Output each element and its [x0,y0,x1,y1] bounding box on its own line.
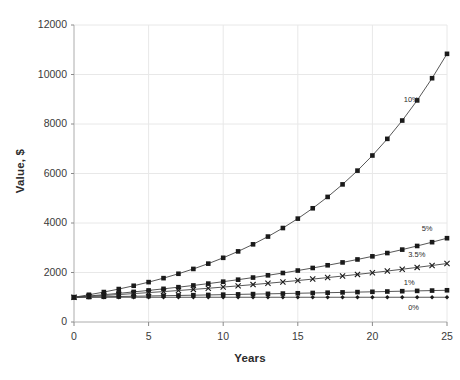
series-label-0: 0% [408,303,419,312]
series-marker [191,267,196,272]
series-marker [296,291,301,296]
series-line [74,238,447,297]
series-marker [206,281,211,286]
series-marker [281,271,286,276]
series-marker [430,295,434,299]
series-marker [415,295,419,299]
series-marker [445,295,449,299]
x-tick-label: 0 [54,330,94,342]
series-marker [236,249,241,254]
series-marker [340,290,345,295]
series-marker [176,271,181,276]
series-marker [266,273,271,278]
x-tick-label: 10 [203,330,243,342]
series-marker [400,118,405,123]
series-marker [370,254,375,259]
series-marker [445,288,450,293]
y-tick-label: 12000 [21,18,67,30]
series-marker [370,290,375,295]
series-marker [325,263,330,268]
series-marker [355,290,360,295]
series-marker [415,244,420,249]
data-series-0 [72,295,449,299]
x-tick-label: 5 [129,330,169,342]
series-marker [131,283,136,288]
series-marker [251,242,256,247]
series-marker [370,153,375,158]
series-marker [385,251,390,256]
series-marker [311,295,315,299]
series-marker [355,168,360,173]
series-marker [296,216,301,221]
y-tick-label: 4000 [21,216,67,228]
series-marker [355,257,360,262]
y-tick-label: 10000 [21,68,67,80]
y-tick-label: 2000 [21,266,67,278]
series-label-1: 1% [404,278,415,287]
series-marker [206,261,211,266]
series-marker [445,52,450,57]
series-marker [310,266,315,271]
series-marker [385,295,389,299]
series-marker [221,279,226,284]
series-marker [310,206,315,211]
data-series-10 [72,52,450,300]
data-series-5 [72,236,450,300]
series-label-5: 5% [422,224,433,233]
series-marker [400,247,405,252]
series-marker [430,240,435,245]
y-tick-label: 0 [21,315,67,327]
series-marker [445,236,450,241]
series-marker [296,295,300,299]
grid-lines [74,25,447,322]
data-series-layer [71,52,449,300]
series-marker [266,234,271,239]
series-marker [400,295,404,299]
series-marker [251,275,256,280]
series-marker [281,226,286,231]
series-marker [161,276,166,281]
series-marker [340,182,345,187]
chart-container: Value, $ Years 0200040006000800010000120… [0,0,460,380]
chart-plot-area [0,0,460,380]
series-marker [415,289,420,294]
series-marker [430,76,435,81]
series-marker [325,295,329,299]
series-marker [325,195,330,200]
series-marker [340,295,344,299]
series-marker [370,295,374,299]
series-marker [296,268,301,273]
x-axis-title: Years [0,352,460,364]
series-marker [116,287,121,292]
series-marker [355,295,359,299]
series-marker [340,260,345,265]
y-tick-label: 8000 [21,117,67,129]
x-tick-label: 25 [427,330,460,342]
series-label-10: 10% [404,95,419,104]
series-marker [236,277,241,282]
series-marker [430,288,435,293]
series-label-35: 3.5% [408,250,425,259]
x-tick-label: 20 [352,330,392,342]
y-tick-label: 6000 [21,167,67,179]
series-marker [310,291,315,296]
axis-lines [71,25,447,326]
series-marker [146,280,151,285]
series-marker [221,255,226,260]
series-marker [385,289,390,294]
x-tick-label: 15 [278,330,318,342]
series-line [74,54,447,297]
series-marker [385,137,390,142]
series-marker [325,290,330,295]
series-marker [400,289,405,294]
